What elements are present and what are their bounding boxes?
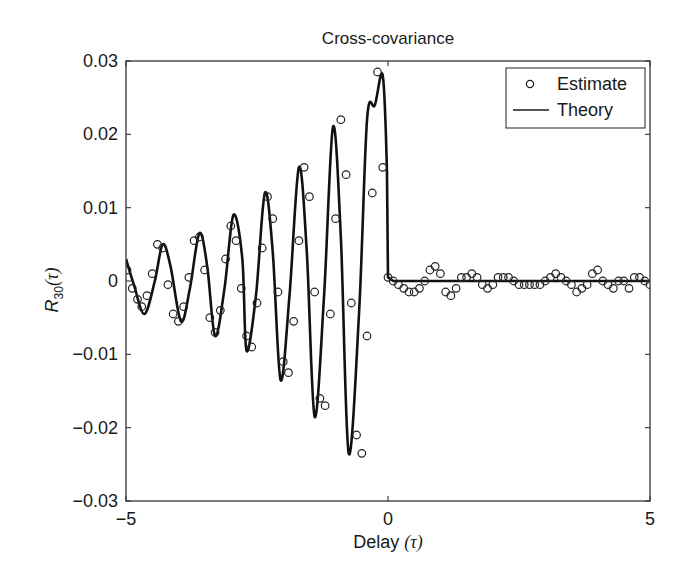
estimate-point <box>589 270 597 278</box>
estimate-point <box>154 241 162 249</box>
estimate-point <box>368 189 376 197</box>
estimate-point <box>400 285 408 293</box>
estimate-point <box>484 285 492 293</box>
estimate-point <box>594 266 602 274</box>
y-tick-label: −0.02 <box>72 418 118 438</box>
estimate-point <box>348 299 356 307</box>
estimate-point <box>437 270 445 278</box>
estimate-point <box>306 193 314 201</box>
estimate-point <box>295 237 303 245</box>
chart-title: Cross-covariance <box>322 29 454 48</box>
estimate-point <box>143 292 151 300</box>
y-tick-label: 0 <box>108 271 118 291</box>
estimate-point <box>290 318 298 326</box>
estimate-point <box>358 450 366 458</box>
estimate-point <box>610 285 618 293</box>
estimate-point <box>164 281 172 289</box>
estimate-point <box>332 215 340 223</box>
x-tick-label: 5 <box>645 509 655 529</box>
estimate-point <box>285 369 293 377</box>
estimate-point <box>431 263 439 271</box>
x-tick-label: −5 <box>116 509 137 529</box>
legend-label-theory: Theory <box>557 100 613 120</box>
estimate-point <box>148 270 156 278</box>
estimate-point <box>321 402 329 410</box>
estimate-point <box>625 285 633 293</box>
estimate-point <box>327 310 335 318</box>
legend-label-estimate: Estimate <box>557 74 627 94</box>
x-tick-label: 0 <box>383 509 393 529</box>
estimate-point <box>232 237 240 245</box>
estimate-point <box>169 310 177 318</box>
estimate-point <box>337 116 345 124</box>
y-tick-label: 0.02 <box>83 124 118 144</box>
y-tick-label: −0.01 <box>72 344 118 364</box>
estimate-point <box>353 431 361 439</box>
y-axis-label: R30(τ) <box>42 268 66 313</box>
cross-covariance-chart: Cross-covariance −0.03−0.02−0.0100.010.0… <box>0 0 683 586</box>
estimate-point <box>416 285 424 293</box>
estimate-point <box>468 270 476 278</box>
estimate-point <box>379 164 387 172</box>
estimate-point <box>311 288 319 296</box>
estimate-point <box>300 164 308 172</box>
estimate-point <box>552 270 560 278</box>
estimate-point <box>374 68 382 76</box>
estimate-point <box>447 292 455 300</box>
estimate-point <box>578 285 586 293</box>
estimate-point <box>573 288 581 296</box>
legend: Estimate Theory <box>506 68 645 128</box>
estimate-point <box>442 288 450 296</box>
x-axis-label: Delay (τ) <box>353 532 422 553</box>
theory-line <box>126 73 650 454</box>
estimate-point <box>452 285 460 293</box>
estimate-point <box>342 171 350 179</box>
y-tick-label: 0.03 <box>83 51 118 71</box>
estimate-point <box>410 288 418 296</box>
estimate-point <box>363 332 371 340</box>
estimate-point <box>426 266 434 274</box>
y-tick-label: 0.01 <box>83 198 118 218</box>
y-tick-label: −0.03 <box>72 491 118 511</box>
